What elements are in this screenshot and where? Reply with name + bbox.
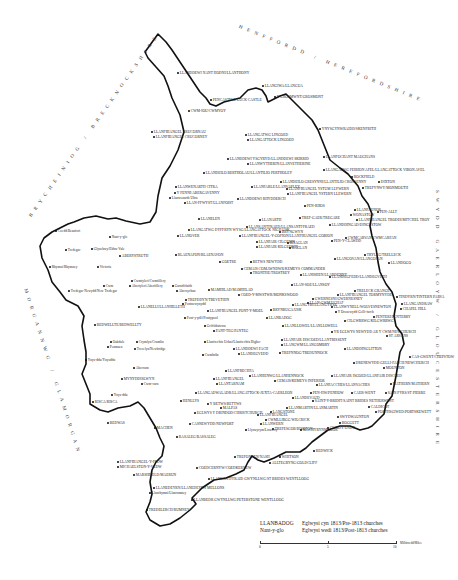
- place-name: Ynys-ddu: [114, 393, 128, 397]
- place-label-pre-1813: TINDYRN/TINTERN PARVA: [395, 295, 444, 299]
- place-label-pre-1813: ST ARVANS: [385, 334, 408, 338]
- place-name: LLANLLOWEL/LLANLLOWELL: [285, 324, 338, 328]
- church-marker-icon: [247, 139, 249, 141]
- place-name: BETWS NEWYDD: [253, 260, 283, 264]
- church-marker-icon: [225, 370, 227, 372]
- place-label-pre-1813: BEDWELLTE/BEDWELLTY: [93, 323, 142, 327]
- church-marker-icon: [334, 258, 336, 260]
- place-label-pre-1813: LLANOVER: [176, 234, 200, 238]
- church-marker-icon: [292, 304, 294, 306]
- place-name: ALLTEGRYNG/GOLDCLIFF: [272, 461, 317, 465]
- place-label-pre-1813: LLANFACCHES/LLANVACHES: [315, 383, 370, 387]
- church-marker-icon: [312, 400, 314, 402]
- place-name: LLANFIHANGEL: [216, 377, 244, 381]
- church-marker-icon: [351, 392, 353, 394]
- place-name: LLANFAIR ISGOED/LLANFAIR DISCOED: [334, 374, 402, 378]
- place-label-pre-1813: PEN-ALLT: [376, 210, 397, 214]
- place-label-pre-1813: SAIN PYRS/ST PIERRE: [384, 391, 425, 395]
- place-label-pre-1813: RHAGLAN: [286, 241, 308, 245]
- church-marker-icon: [260, 423, 262, 425]
- place-name: RHAGLAN: [290, 241, 308, 245]
- place-label-pre-1813: LLANGIWA/LLANGUA: [261, 84, 303, 88]
- church-marker-icon: [299, 217, 301, 219]
- place-name: COED-Y-MWSTWR/MONKSWOOD: [241, 293, 298, 297]
- place-name: LLANFACCHES/LLANVACHES: [319, 383, 370, 387]
- place-name: ROCKFIELD: [354, 175, 375, 179]
- church-marker-icon: [172, 285, 174, 287]
- church-marker-icon: [131, 280, 133, 282]
- church-marker-icon: [110, 341, 112, 343]
- place-label-pre-1813: LLANDDEWI RHYDDERCH: [236, 197, 286, 201]
- place-label-post-1813: Trecelyn/Newbridge: [133, 347, 166, 351]
- church-marker-icon: [204, 341, 206, 343]
- church-marker-icon: [368, 406, 370, 408]
- church-marker-icon: [195, 392, 197, 394]
- place-label-pre-1813: LLANDDEWI NANT HODNI/LLANTHONY: [176, 71, 249, 75]
- place-name: CAS-GWENT/CHEPSTOW: [412, 355, 454, 359]
- place-label-pre-1813: LLANLLOWEL/LLANLLOWELL: [281, 324, 338, 328]
- place-name: Llanwenarth Ultra: [172, 196, 198, 200]
- place-name: LLANARTH: [262, 218, 282, 222]
- place-name: BASALEG/BASSALEG: [179, 435, 216, 439]
- place-name: LLANDEGVEDD: [241, 352, 269, 356]
- place-label-pre-1813: LLANSANTFRAED/LLANSANTFFRAED: [245, 225, 315, 229]
- church-marker-icon: [279, 231, 281, 233]
- place-name: MALPAS: [223, 406, 238, 410]
- church-marker-icon: [85, 359, 87, 361]
- place-name: Nant-y-glo: [112, 235, 127, 239]
- place-label-post-1813: Penmaen: [106, 345, 123, 349]
- church-marker-icon: [256, 246, 258, 248]
- place-name: Rhymni/Rhymney: [52, 265, 78, 269]
- place-name: Trecelyn/Newbridge: [137, 347, 166, 351]
- place-label-pre-1813: LLANFIHANGEL CRUCORNEY: [152, 135, 207, 139]
- place-name: Y FENNI/ABERGAVENNY: [177, 191, 220, 195]
- church-marker-icon: [350, 214, 352, 216]
- place-label-pre-1813: LLANGANDRAW: [400, 302, 432, 306]
- place-label-pre-1813: CAS-GWENT/CHEPSTOW: [408, 355, 454, 359]
- place-label-post-1813: Cwmtyleri/Cwmtillery: [130, 279, 166, 283]
- place-name: CHAPEL HILL: [403, 307, 426, 311]
- church-marker-icon: [279, 456, 281, 458]
- place-label-pre-1813: LLANWYTHERIN/LLANVETHERINE: [246, 162, 311, 166]
- place-label-pre-1813: CALDICOT: [367, 405, 389, 409]
- church-marker-icon: [400, 308, 402, 310]
- church-marker-icon: [281, 339, 283, 341]
- place-label-post-1813: Glynebwy/Ebbw Vale: [90, 247, 124, 251]
- place-name: HENLLYS: [183, 399, 199, 403]
- place-label-pre-1813: LLANFIHANGEL PONT-Y-MOEL: [206, 309, 263, 313]
- church-marker-icon: [175, 186, 177, 188]
- place-label-pre-1813: MAMHILAD/MAMHILAD: [207, 288, 253, 292]
- place-name: Penmaen: [110, 345, 123, 349]
- place-label-pre-1813: PEN-HW/PENHOW: [309, 391, 344, 395]
- place-label-pre-1813: LLANWERN: [259, 422, 283, 426]
- church-marker-icon: [287, 193, 289, 195]
- place-label-post-1813: Tredegar Newydd/New Tredegar: [67, 289, 117, 293]
- church-marker-icon: [323, 156, 325, 158]
- place-name: Victoria: [100, 265, 111, 269]
- place-name: TREDELERCH/RUMNEY: [149, 508, 190, 512]
- church-marker-icon: [203, 172, 205, 174]
- place-name: PANT-TEG/PANTEG: [216, 329, 249, 333]
- place-name: PEN-ALLT: [380, 210, 397, 214]
- church-marker-icon: [111, 394, 113, 396]
- place-label-pre-1813: LLANTARNAM: [215, 382, 244, 386]
- church-marker-icon: [401, 303, 403, 305]
- place-label-pre-1813: LLANBEDR GWYNLLWG/PETERSTONE WENTLLOOG: [190, 498, 284, 502]
- church-marker-icon: [213, 378, 215, 380]
- place-label-pre-1813: HENLLYS: [179, 399, 199, 403]
- place-name: Pontnewynydd: [185, 302, 206, 306]
- place-label-pre-1813: LLANGWM/LLANGOMBRY: [280, 343, 330, 347]
- church-marker-icon: [204, 325, 206, 327]
- place-label-pre-1813: REDWICK: [312, 449, 333, 453]
- place-name: LLANTARNAM: [219, 382, 244, 386]
- church-marker-icon: [136, 341, 138, 343]
- scale-tick-5: [328, 541, 329, 544]
- church-marker-icon: [291, 284, 293, 286]
- place-label-pre-1813: LLANBADOG: [265, 316, 292, 320]
- church-marker-icon: [189, 423, 191, 425]
- church-marker-icon: [49, 266, 51, 268]
- church-marker-icon: [97, 266, 99, 268]
- place-label-pre-1813: TREFNNOG/TREDUNNOCK: [278, 351, 328, 355]
- place-name: Cwm: [106, 284, 114, 288]
- church-marker-icon: [184, 202, 186, 204]
